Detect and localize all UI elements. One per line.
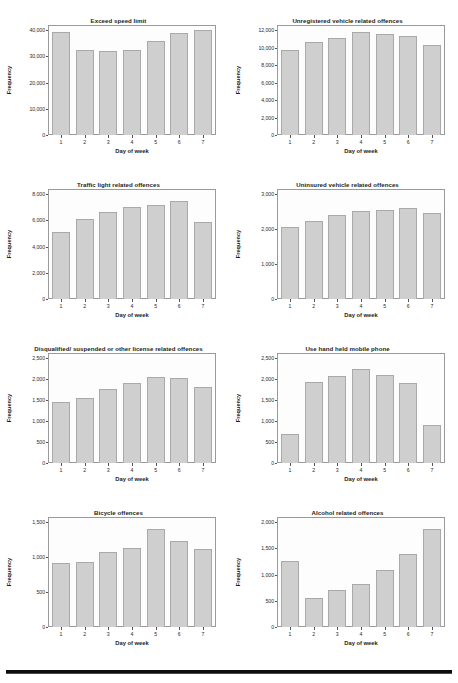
plot-area	[48, 25, 216, 135]
y-axis: 05001,0001,5002,000	[233, 517, 277, 627]
bar	[194, 30, 212, 135]
x-axis-tick-label: 7	[194, 135, 212, 145]
x-axis: 1234567	[48, 463, 216, 475]
y-axis-tick-label: 6,000	[32, 217, 45, 223]
x-axis-ticks: 1234567	[52, 627, 212, 637]
x-axis-tick-label: 6	[170, 627, 188, 637]
x-axis-tick-label: 2	[305, 627, 323, 637]
x-axis: 1234567	[277, 135, 445, 147]
x-axis-tick-label: 7	[423, 299, 441, 309]
bar	[376, 570, 394, 627]
y-axis: 02,0004,0006,0008,00010,00012,000	[233, 25, 277, 135]
x-axis-tick-label: 2	[305, 299, 323, 309]
horizontal-rule-divider	[6, 670, 452, 674]
y-axis-tick-label: 1,500	[32, 519, 45, 525]
y-axis-tick-label: 1,500	[261, 397, 274, 403]
x-axis-label: Day of week	[277, 640, 445, 646]
x-axis-tick-label: 2	[305, 135, 323, 145]
y-axis-tick-label: 2,000	[261, 376, 274, 382]
y-axis-tick-label: 1,000	[32, 418, 45, 424]
bar	[399, 36, 417, 135]
x-axis-tick-label: 3	[328, 627, 346, 637]
y-axis-tick-label: 2,500	[261, 355, 274, 361]
x-axis-label: Day of week	[48, 148, 216, 154]
y-axis: 05001,0001,5002,0002,500	[233, 353, 277, 463]
x-axis-tick-label: 2	[76, 627, 94, 637]
bar	[52, 32, 70, 135]
y-axis-tick-label: 1,000	[261, 572, 274, 578]
bar	[99, 212, 117, 299]
bar	[399, 383, 417, 463]
x-axis-label: Day of week	[277, 148, 445, 154]
bar	[328, 590, 346, 627]
chart-panel: Unregistered vehicle related offencesFre…	[233, 6, 458, 170]
bar	[76, 50, 94, 135]
bar	[423, 425, 441, 463]
y-axis-tick-label: 0	[42, 132, 45, 138]
plot-area	[48, 353, 216, 463]
x-axis-tick-label: 5	[376, 299, 394, 309]
y-axis-tick-label: 30,000	[29, 53, 45, 59]
x-axis-ticks: 1234567	[52, 135, 212, 145]
bar	[399, 554, 417, 627]
plot-area	[277, 189, 445, 299]
bar-series	[281, 517, 441, 627]
x-axis-tick-label: 2	[76, 299, 94, 309]
plot-area	[48, 517, 216, 627]
y-axis-tick-label: 3,000	[261, 191, 274, 197]
y-axis-tick-label: 500	[36, 439, 45, 445]
x-axis-ticks: 1234567	[52, 299, 212, 309]
chart-title: Unregistered vehicle related offences	[233, 17, 458, 24]
bar	[123, 383, 141, 463]
x-axis-tick-label: 1	[52, 135, 70, 145]
bar-series	[281, 25, 441, 135]
y-axis-tick-label: 12,000	[258, 27, 274, 33]
x-axis-label: Day of week	[48, 640, 216, 646]
bar	[305, 598, 323, 627]
y-axis: 01,0002,0003,000	[233, 189, 277, 299]
x-axis-tick-label: 1	[52, 627, 70, 637]
x-axis-tick-label: 5	[376, 627, 394, 637]
x-axis-tick-label: 1	[281, 627, 299, 637]
y-axis-tick-label: 2,000	[32, 376, 45, 382]
x-axis-ticks: 1234567	[281, 135, 441, 145]
chart-title: Exceed speed limit	[4, 17, 233, 24]
y-axis-tick-label: 0	[271, 624, 274, 630]
y-axis-tick-label: 1,500	[261, 545, 274, 551]
y-axis-tick-label: 6,000	[261, 80, 274, 86]
bar	[328, 38, 346, 135]
bar	[328, 215, 346, 300]
x-axis-tick-label: 6	[399, 627, 417, 637]
y-axis-tick-label: 0	[42, 624, 45, 630]
plot-area	[277, 517, 445, 627]
bar	[352, 32, 370, 135]
bar-series	[52, 353, 212, 463]
x-axis-tick-label: 4	[123, 463, 141, 473]
x-axis: 1234567	[277, 463, 445, 475]
x-axis-tick-label: 4	[352, 135, 370, 145]
bar	[170, 33, 188, 135]
y-axis-tick-label: 4,000	[32, 244, 45, 250]
x-axis-tick-label: 7	[423, 463, 441, 473]
x-axis-tick-label: 6	[170, 299, 188, 309]
y-axis-tick-label: 500	[265, 598, 274, 604]
x-axis-tick-label: 3	[99, 627, 117, 637]
x-axis-tick-label: 5	[147, 627, 165, 637]
x-axis-tick-label: 1	[281, 463, 299, 473]
y-axis-tick-label: 10,000	[29, 106, 45, 112]
x-axis-tick-label: 7	[194, 299, 212, 309]
bar	[76, 562, 94, 627]
x-axis-label: Day of week	[48, 476, 216, 482]
y-axis-tick-label: 20,000	[29, 80, 45, 86]
chart-title: Bicycle offences	[4, 509, 233, 516]
bar	[147, 205, 165, 299]
y-axis-tick-label: 2,500	[32, 355, 45, 361]
bar-series	[281, 189, 441, 299]
bar-series	[281, 353, 441, 463]
bar	[281, 434, 299, 463]
x-axis: 1234567	[277, 627, 445, 639]
x-axis-tick-label: 3	[99, 463, 117, 473]
chart-title: Traffic light related offences	[4, 181, 233, 188]
x-axis-tick-label: 4	[123, 299, 141, 309]
plot-area	[277, 353, 445, 463]
